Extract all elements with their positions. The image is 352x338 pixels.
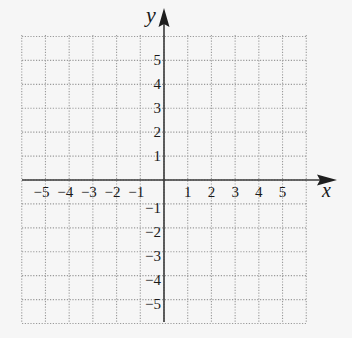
y-tick-label: −5	[145, 296, 161, 312]
x-tick-label: −5	[33, 184, 49, 200]
x-tick-label: 1	[184, 184, 192, 200]
coordinate-plane: −5−4−3−2−112345 54321−1−2−3−4−5 x y	[0, 0, 352, 338]
y-tick-label: −3	[145, 248, 161, 264]
y-tick-labels: 54321−1−2−3−4−5	[145, 52, 161, 311]
x-tick-labels: −5−4−3−2−112345	[33, 184, 286, 200]
y-tick-label: 4	[154, 76, 162, 92]
y-tick-label: 5	[154, 52, 162, 68]
x-tick-label: 5	[279, 184, 287, 200]
x-tick-label: 3	[231, 184, 239, 200]
y-tick-label: 3	[154, 100, 162, 116]
y-tick-label: −4	[145, 272, 161, 288]
x-tick-label: −3	[81, 184, 97, 200]
x-tick-label: −1	[128, 184, 144, 200]
x-tick-label: 2	[208, 184, 216, 200]
x-tick-label: 4	[255, 184, 263, 200]
y-tick-label: 2	[154, 124, 162, 140]
y-tick-label: −1	[145, 200, 161, 216]
x-tick-label: −4	[57, 184, 73, 200]
coordinate-plane-svg: −5−4−3−2−112345 54321−1−2−3−4−5 x y	[0, 0, 352, 338]
x-axis-label: x	[321, 179, 331, 201]
x-tick-label: −2	[105, 184, 121, 200]
y-tick-label: −2	[145, 224, 161, 240]
y-tick-label: 1	[154, 148, 162, 164]
y-axis-label: y	[144, 2, 156, 27]
